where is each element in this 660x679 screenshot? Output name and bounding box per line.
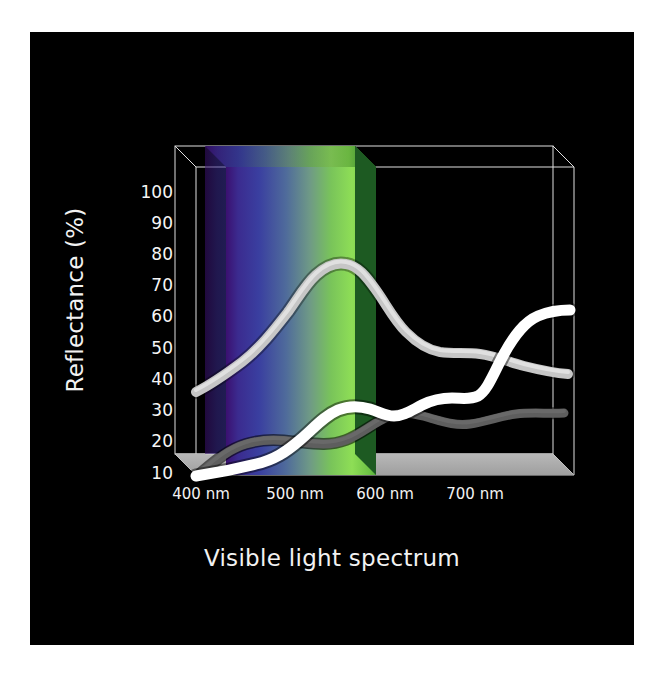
chart-title: Visible light spectrum [30,545,634,571]
x-tick-600nm: 600 nm [340,486,430,502]
x-tick-400nm: 400 nm [156,486,246,502]
x-tick-500nm: 500 nm [250,486,340,502]
chart-figure: Reflectance (%) 100 90 80 70 60 50 40 30… [30,32,634,645]
x-tick-700nm: 700 nm [430,486,520,502]
